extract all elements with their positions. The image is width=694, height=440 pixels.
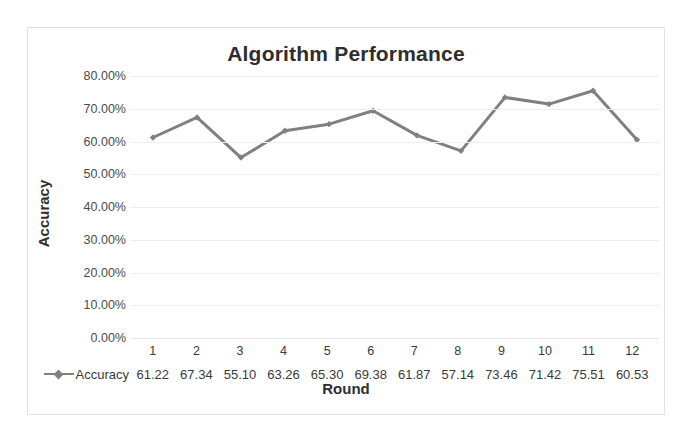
y-axis-tick-label: 70.00% — [58, 102, 126, 116]
data-table-category-cell: 5 — [305, 344, 349, 358]
gridline — [131, 207, 659, 208]
y-axis-tick-label: 30.00% — [58, 233, 126, 247]
y-axis-tick-label: 40.00% — [58, 200, 126, 214]
plot-area — [131, 76, 659, 338]
y-axis-tick-label: 50.00% — [58, 167, 126, 181]
data-table-category-cell: 4 — [262, 344, 306, 358]
y-axis-tick-label: 80.00% — [58, 69, 126, 83]
data-table-category-cells: 123456789101112 — [131, 344, 654, 358]
gridline — [131, 174, 659, 175]
y-axis-tick-label: 10.00% — [58, 298, 126, 312]
gridline — [131, 240, 659, 241]
y-axis-tick-label: 20.00% — [58, 266, 126, 280]
data-table-category-cell: 11 — [567, 344, 611, 358]
data-table-category-cell: 10 — [523, 344, 567, 358]
gridline — [131, 109, 659, 110]
x-axis-title: Round — [28, 380, 664, 397]
gridline — [131, 273, 659, 274]
data-table-category-cell: 9 — [480, 344, 524, 358]
gridline — [131, 76, 659, 77]
data-table-category-cell: 7 — [392, 344, 436, 358]
y-axis-tick-labels: 80.00%70.00%60.00%50.00%40.00%30.00%20.0… — [58, 76, 126, 338]
gridline — [131, 338, 659, 339]
gridline — [131, 305, 659, 306]
y-axis-tick-label: 60.00% — [58, 135, 126, 149]
data-table-category-row: 123456789101112 — [40, 340, 654, 362]
data-table-category-cell: 8 — [436, 344, 480, 358]
data-table-category-cell: 1 — [131, 344, 175, 358]
data-table-category-cell: 12 — [610, 344, 654, 358]
y-axis-title: Accuracy — [33, 148, 55, 278]
data-table-category-cell: 2 — [175, 344, 219, 358]
series-line — [153, 91, 637, 158]
data-table-category-cell: 3 — [218, 344, 262, 358]
chart-frame: Algorithm Performance Accuracy 80.00%70.… — [27, 27, 665, 415]
y-axis-title-label: Accuracy — [36, 179, 53, 247]
gridline — [131, 142, 659, 143]
chart-title: Algorithm Performance — [28, 42, 664, 66]
data-table-category-cell: 6 — [349, 344, 393, 358]
line-diamond-marker-icon — [44, 369, 74, 379]
